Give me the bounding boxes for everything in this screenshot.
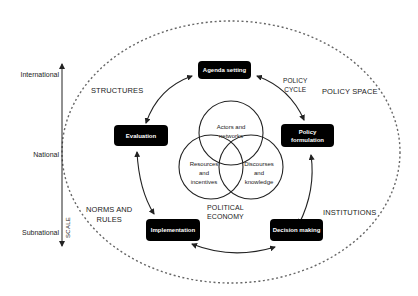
scale-axis-label: SCALE [65, 217, 71, 238]
label-structures: STRUCTURES [91, 86, 143, 96]
diagram-canvas [0, 0, 418, 296]
venn-label-resources-incentives: Resources and incentives [182, 160, 226, 187]
stage-agenda-setting: Agenda setting [198, 61, 251, 79]
venn-label-discourses-knowledge: Discourses and knowledge [237, 160, 281, 187]
venn-label-actors-networks: Actors and networks [209, 123, 253, 141]
stage-policy-formulation: Policy formulation [281, 124, 334, 147]
stage-evaluation: Evaluation [114, 125, 168, 146]
scale-level-international: International [0, 71, 59, 78]
stage-decision-making: Decision making [270, 219, 323, 241]
arrow-evaluation-to-agenda [146, 76, 192, 123]
label-policy-space: POLICY SPACE [322, 87, 378, 97]
label-political-economy: POLITICAL ECONOMY [207, 203, 244, 221]
label-policy-cycle: POLICY CYCLE [283, 76, 307, 94]
arrow-decision-to-implementation [192, 244, 275, 253]
scale-level-subnational: Subnational [0, 229, 59, 236]
arrow-formulation-to-decision [299, 155, 312, 224]
arrow-implementation-to-evaluation [137, 152, 154, 214]
stage-implementation: Implementation [146, 219, 200, 241]
label-institutions: INSTITUTIONS [323, 208, 376, 218]
scale-level-national: National [0, 151, 59, 158]
label-norms-and-rules: NORMS AND RULES [86, 205, 132, 225]
